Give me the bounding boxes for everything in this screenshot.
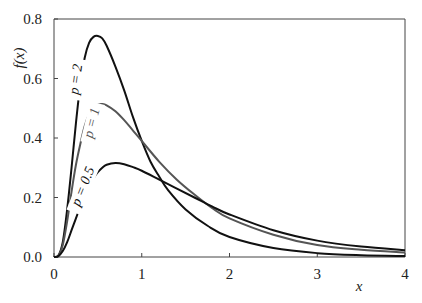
plot-frame [54, 19, 405, 257]
curve-p-1 [54, 104, 405, 257]
x-tick-label: 0 [50, 266, 58, 282]
curves [54, 36, 405, 257]
ticks: 012340.00.20.40.60.8 [23, 11, 409, 282]
y-tick-label: 0.2 [23, 190, 42, 206]
x-axis-title: x [355, 278, 363, 294]
y-tick-label: 0.0 [23, 249, 42, 265]
x-tick-label: 2 [226, 266, 234, 282]
curve-p-2 [54, 36, 405, 257]
y-axis-title: f(x) [11, 48, 28, 69]
y-tick-label: 0.4 [23, 130, 42, 146]
y-tick-label: 0.6 [23, 71, 42, 87]
chart: 012340.00.20.40.60.8 p = 2p = 1p = 0.5 f… [0, 0, 422, 303]
x-tick-label: 3 [314, 266, 322, 282]
y-tick-label: 0.8 [23, 11, 42, 27]
x-tick-label: 1 [138, 266, 146, 282]
curve-p-0.5 [54, 163, 405, 257]
x-tick-label: 4 [401, 266, 409, 282]
